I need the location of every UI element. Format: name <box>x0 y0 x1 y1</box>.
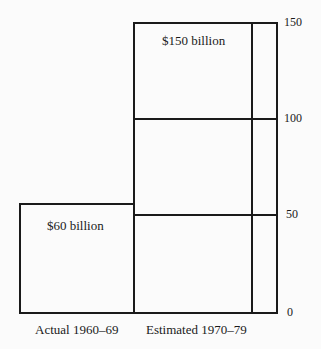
y-tick-0: 0 <box>287 305 293 320</box>
axis-inner-line <box>251 22 253 314</box>
bar-value-label-actual: $60 billion <box>47 218 104 234</box>
bar-value-label-estimated: $150 billion <box>162 33 225 49</box>
y-tick-150: 150 <box>284 15 302 30</box>
gridline-50 <box>133 214 278 216</box>
y-tick-50: 50 <box>286 207 298 222</box>
x-label-actual: Actual 1960–69 <box>35 322 118 338</box>
gridline-100 <box>133 118 278 120</box>
bar-estimated-1970-79 <box>133 22 278 314</box>
x-label-estimated: Estimated 1970–79 <box>146 322 247 338</box>
y-tick-100: 100 <box>284 111 302 126</box>
